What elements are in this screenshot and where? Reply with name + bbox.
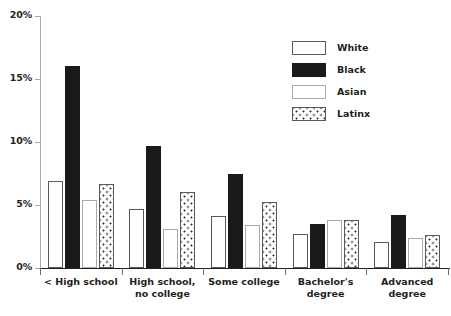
- x-axis-label: Some college: [203, 276, 285, 288]
- legend-item-black: Black: [292, 60, 442, 79]
- x-axis-label: Advanced degree: [366, 276, 448, 300]
- bar-black: [391, 215, 406, 268]
- bar-chart: 0%5%10%15%20% < High schoolHigh school, …: [0, 0, 451, 316]
- bar-black: [310, 224, 325, 268]
- bar-latinx: [262, 202, 277, 268]
- y-tick-label: 10%: [10, 135, 32, 146]
- legend-item-asian: Asian: [292, 82, 442, 101]
- group-separator: [203, 268, 204, 275]
- y-tick-label: 5%: [16, 198, 32, 209]
- x-axis-line: [40, 268, 450, 269]
- y-tick-0: 0%: [0, 268, 40, 269]
- bar-latinx: [99, 184, 114, 268]
- y-tick-label: 15%: [10, 72, 32, 83]
- bar-black: [228, 174, 243, 269]
- x-axis-label: Bachelor's degree: [285, 276, 367, 300]
- y-tick-5: 5%: [0, 205, 40, 206]
- group-separator: [122, 268, 123, 275]
- bar-group: [122, 16, 204, 268]
- bar-asian: [245, 225, 260, 268]
- legend-label-asian: Asian: [337, 86, 366, 97]
- bar-asian: [82, 200, 97, 268]
- bar-asian: [163, 229, 178, 268]
- bar-white: [129, 209, 144, 268]
- bar-latinx: [180, 192, 195, 268]
- group-separator: [448, 268, 449, 275]
- bar-group: [40, 16, 122, 268]
- bar-white: [374, 242, 389, 268]
- chart-legend: White Black Asian Latinx: [292, 38, 442, 126]
- x-axis-label: < High school: [40, 276, 122, 288]
- legend-item-latinx: Latinx: [292, 104, 442, 123]
- bar-group: [203, 16, 285, 268]
- bar-black: [65, 66, 80, 268]
- bar-asian: [327, 220, 342, 268]
- bar-white: [211, 216, 226, 268]
- group-separator: [366, 268, 367, 275]
- bar-latinx: [425, 235, 440, 268]
- y-tick-label: 20%: [10, 9, 32, 20]
- y-tick-10: 10%: [0, 142, 40, 143]
- y-tick-15: 15%: [0, 79, 40, 80]
- legend-swatch-latinx: [292, 107, 326, 121]
- legend-swatch-asian: [292, 85, 326, 99]
- x-axis-label: High school, no college: [122, 276, 204, 300]
- bar-black: [146, 146, 161, 268]
- bar-white: [293, 234, 308, 268]
- bar-asian: [408, 238, 423, 268]
- legend-label-latinx: Latinx: [337, 108, 370, 119]
- group-separator: [40, 268, 41, 275]
- bar-latinx: [344, 220, 359, 268]
- legend-label-white: White: [337, 42, 368, 53]
- legend-label-black: Black: [337, 64, 366, 75]
- legend-swatch-black: [292, 63, 326, 77]
- bar-white: [48, 181, 63, 268]
- legend-swatch-white: [292, 41, 326, 55]
- legend-item-white: White: [292, 38, 442, 57]
- y-tick-label: 0%: [16, 261, 32, 272]
- group-separator: [285, 268, 286, 275]
- y-tick-20: 20%: [0, 16, 40, 17]
